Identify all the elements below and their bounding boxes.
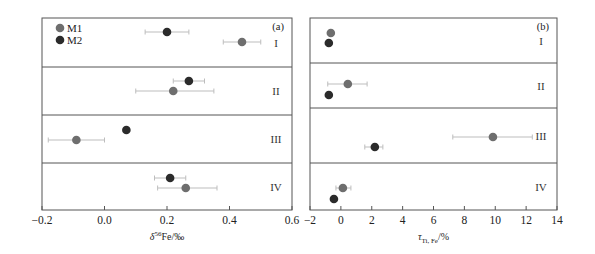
axis-unit: Fe/‰	[161, 231, 184, 242]
x-tick-label: 4	[400, 214, 406, 226]
panel-label: (a)	[272, 21, 284, 33]
panel-b: −202468101214IIIIIIIV(b)τTi, Fe/%	[304, 18, 563, 245]
data-point-m1	[181, 184, 190, 193]
legend-label-m2: M2	[67, 34, 82, 46]
group-label: III	[536, 130, 547, 142]
data-point-m2	[163, 28, 172, 37]
x-axis-label: δ56Fe/‰	[150, 230, 184, 242]
x-tick-label: 12	[520, 214, 532, 226]
data-point-m2	[122, 126, 131, 135]
x-tick-label: 0.2	[160, 214, 175, 226]
group-label: III	[271, 133, 282, 145]
x-tick-label: 14	[551, 214, 563, 226]
group-label: IV	[270, 181, 282, 193]
data-point-m1	[339, 184, 348, 193]
x-axis-label: τTi, Fe/%	[418, 231, 449, 245]
data-point-m2	[330, 195, 339, 204]
legend-marker-m2	[56, 36, 65, 45]
data-point-m2	[371, 143, 380, 152]
group-label: I	[539, 35, 543, 47]
x-tick-label: −2	[304, 214, 316, 226]
axis-unit: /%	[438, 231, 449, 242]
x-tick-label: 0.4	[222, 214, 237, 226]
x-tick-label: 0	[338, 214, 344, 226]
data-point-m1	[72, 136, 81, 145]
data-point-m1	[344, 80, 353, 89]
group-label: II	[272, 85, 280, 97]
group-label: I	[274, 37, 278, 49]
data-point-m1	[489, 133, 498, 142]
panel-a: −0.20.00.20.40.6IIIIIIIV(a)δ56Fe/‰M1M2	[32, 18, 300, 242]
data-point-m2	[185, 77, 194, 86]
data-point-m2	[166, 174, 175, 183]
legend-marker-m1	[56, 24, 65, 33]
panel-label: (b)	[537, 21, 550, 33]
x-tick-label: 2	[369, 214, 375, 226]
legend-label-m1: M1	[67, 22, 82, 34]
tau-subscript: Ti, Fe	[422, 237, 438, 245]
chart-canvas: −0.20.00.20.40.6IIIIIIIV(a)δ56Fe/‰M1M2 −…	[0, 0, 595, 254]
x-tick-label: −0.2	[32, 214, 53, 226]
x-tick-label: 10	[490, 214, 502, 226]
plot-frame	[42, 18, 292, 210]
data-point-m1	[238, 38, 247, 47]
plot-frame	[310, 18, 557, 210]
group-label: II	[537, 80, 545, 92]
x-tick-label: 8	[462, 214, 468, 226]
x-tick-label: 0.0	[97, 214, 112, 226]
data-point-m2	[325, 39, 334, 48]
data-point-m2	[325, 91, 334, 100]
data-point-m1	[169, 87, 178, 96]
group-label: IV	[535, 181, 547, 193]
x-tick-label: 0.6	[285, 214, 300, 226]
x-tick-label: 6	[431, 214, 437, 226]
data-point-m1	[327, 29, 336, 38]
